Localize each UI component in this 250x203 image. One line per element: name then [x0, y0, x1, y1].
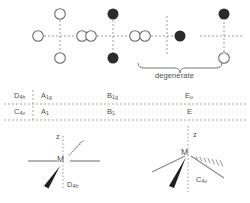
term-b1: B1 [107, 108, 115, 116]
point-group-d4h-main: D [14, 91, 20, 100]
term-e: E [187, 108, 192, 116]
point-group-label-d4h-sub: 4h [73, 183, 79, 189]
atom-open-left [140, 31, 151, 42]
bond-wedge-lower-left [44, 166, 60, 189]
vibration-diagram-eu-y [200, 9, 244, 64]
atom-open-top [55, 9, 66, 20]
figure-canvas [0, 0, 250, 203]
atom-open-left [86, 31, 97, 42]
point-group-label-c4v-main: C [196, 175, 202, 184]
point-group-c4v-main: C [14, 107, 20, 116]
atom-filled-right [175, 31, 186, 42]
term-b1g: B1g [107, 92, 118, 100]
term-eu-sub: u [190, 94, 193, 100]
point-group-label-c4v: C4v [196, 176, 207, 184]
structure-c4v [152, 126, 224, 192]
point-group-d4h-sub: 4h [20, 94, 26, 100]
z-axis-label-c4v: z [193, 131, 197, 139]
term-b1g-sub: 1g [112, 94, 118, 100]
term-a1: A1 [41, 108, 49, 116]
point-group-d4h-label: D4h [14, 92, 26, 100]
vibration-diagram-b1g [86, 9, 141, 64]
term-a1-sub: 1 [46, 110, 49, 116]
vibration-diagram-a1g [33, 9, 88, 64]
point-group-c4v-label: C4v [14, 108, 25, 116]
atom-open-left [33, 31, 44, 42]
metal-label-d4h: M [57, 155, 64, 164]
point-group-label-d4h: D4h [67, 181, 79, 189]
bond-hashed-upper-right [69, 141, 84, 156]
term-eu: Eu [185, 92, 193, 100]
atom-open-right [130, 31, 141, 42]
point-group-label-c4v-sub: 4v [202, 178, 208, 184]
atom-open-bottom [55, 53, 66, 64]
z-axis-label-d4h: z [56, 133, 60, 141]
term-a1g: A1g [41, 92, 52, 100]
vibration-diagram-eu-x [140, 16, 187, 56]
metal-label-c4v: M [181, 148, 188, 157]
point-group-label-d4h-main: D [67, 180, 73, 189]
atom-open-bottom [219, 53, 230, 64]
atom-filled-top [219, 9, 230, 20]
figure-root: degenerate D4h A1g B1g Eu C4v A1 B1 E z … [0, 0, 250, 203]
term-b1-sub: 1 [112, 110, 115, 116]
atom-filled-top [108, 9, 119, 20]
term-e-main: E [187, 107, 192, 116]
degenerate-label: degenerate [155, 72, 194, 80]
point-group-c4v-sub: 4v [20, 110, 26, 116]
term-a1g-sub: 1g [46, 94, 52, 100]
bond-wedge-down-left [169, 157, 186, 188]
atom-filled-bottom [108, 53, 119, 64]
